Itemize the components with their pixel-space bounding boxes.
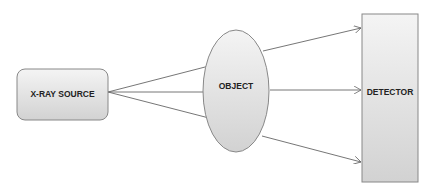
detector-label: DETECTOR	[367, 87, 414, 97]
xray-source-box: X-RAY SOURCE	[17, 69, 108, 120]
detector-rays	[262, 28, 361, 162]
xray-diagram: X-RAY SOURCE OBJECT DETECTOR	[0, 0, 433, 190]
object-ellipse: OBJECT	[203, 30, 269, 152]
detector-box: DETECTOR	[362, 14, 418, 182]
source-rays	[108, 66, 209, 118]
object-label: OBJECT	[219, 81, 254, 91]
xray-source-label: X-RAY SOURCE	[30, 89, 95, 99]
